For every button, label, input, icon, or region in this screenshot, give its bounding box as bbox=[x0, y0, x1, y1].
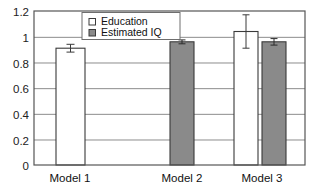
bar-chart: 1.2 1 0.8 0.6 0.4 0.2 0 bbox=[0, 0, 319, 190]
bar-estimated-iq-model-3[interactable] bbox=[262, 42, 286, 165]
y-tick-label: 0 bbox=[23, 160, 29, 172]
x-axis-category-labels: Model 1 Model 2 Model 3 bbox=[50, 172, 283, 184]
bar-group-model-2 bbox=[170, 40, 194, 165]
bar-group-model-1 bbox=[56, 44, 85, 165]
y-tick-label: 1.2 bbox=[13, 6, 29, 18]
legend-swatch-education bbox=[89, 19, 96, 26]
bar-education-model-1[interactable] bbox=[56, 48, 85, 165]
x-tick-label-model-3: Model 3 bbox=[242, 172, 283, 184]
legend-label-estimated-iq: Estimated IQ bbox=[101, 26, 162, 38]
x-tick-label-model-1: Model 1 bbox=[50, 172, 91, 184]
y-tick-label: 0.6 bbox=[13, 83, 29, 95]
chart-canvas: 1.2 1 0.8 0.6 0.4 0.2 0 bbox=[0, 0, 319, 190]
x-tick-label-model-2: Model 2 bbox=[162, 172, 203, 184]
y-tick-label: 1 bbox=[23, 32, 29, 44]
y-tick-label: 0.4 bbox=[13, 109, 30, 121]
y-tick-label: 0.2 bbox=[13, 135, 29, 147]
y-axis-tick-labels: 1.2 1 0.8 0.6 0.4 0.2 0 bbox=[13, 6, 30, 172]
chart-legend[interactable]: Education Estimated IQ bbox=[82, 13, 180, 40]
y-tick-label: 0.8 bbox=[13, 58, 29, 70]
bar-education-model-3[interactable] bbox=[234, 32, 258, 166]
legend-swatch-estimated-iq bbox=[89, 30, 96, 37]
bar-estimated-iq-model-2[interactable] bbox=[170, 42, 194, 165]
